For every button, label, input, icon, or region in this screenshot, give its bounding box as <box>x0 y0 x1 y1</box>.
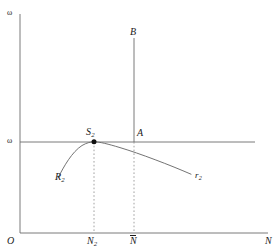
x-tick-n2-base: N <box>87 235 94 246</box>
nbar-overline-wrap: N <box>130 236 137 246</box>
x-axis-label-n: N <box>265 236 272 246</box>
label-b: B <box>130 27 136 37</box>
y-axis-label-omega: ω <box>7 9 12 17</box>
reaction-curve-r2 <box>58 142 191 178</box>
economics-diagram: ω ω B A S2 R2 r2 N2 N N O <box>0 0 280 252</box>
x-tick-label-nbar: N <box>130 236 137 246</box>
label-s2-subscript: 2 <box>91 131 94 138</box>
label-r2-subscript: 2 <box>61 176 64 183</box>
diagram-canvas <box>0 0 280 252</box>
wage-level-label-omega: ω <box>7 137 12 145</box>
x-tick-nbar-base: N <box>130 235 137 246</box>
label-r2-curve-subscript: 2 <box>199 175 202 181</box>
equilibrium-point-s2 <box>92 139 97 144</box>
label-r2-curve-base: r <box>195 170 199 180</box>
label-r2-start: R2 <box>55 172 65 184</box>
x-tick-label-n2: N2 <box>87 236 97 248</box>
label-r2-curve: r2 <box>195 171 202 181</box>
x-tick-n2-subscript: 2 <box>94 240 97 247</box>
label-s2: S2 <box>86 127 95 139</box>
label-a: A <box>137 128 143 138</box>
origin-label-o: O <box>7 236 14 246</box>
overline-bar <box>130 235 135 236</box>
